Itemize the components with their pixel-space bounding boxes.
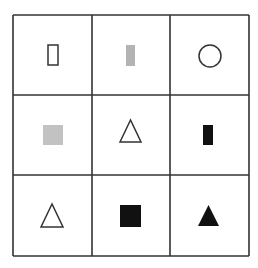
grid-cell-r2-c0 xyxy=(41,204,63,227)
grid-cell-r1-c2 xyxy=(203,125,213,145)
black-triangle-icon xyxy=(198,205,219,226)
grid-cell-r1-c1 xyxy=(120,120,141,142)
gray-square-icon xyxy=(43,125,63,145)
shape-grid-puzzle xyxy=(0,0,258,268)
outline-circle-icon xyxy=(199,45,221,67)
outline-triangle-icon xyxy=(120,120,141,142)
grid-cell-r0-c1 xyxy=(126,45,135,66)
outline-rectangle-icon xyxy=(48,45,58,65)
grid-cell-r2-c1 xyxy=(120,205,141,227)
grid-cell-r1-c0 xyxy=(43,125,63,145)
grid-cells xyxy=(41,45,221,227)
grid-cell-r0-c0 xyxy=(48,45,58,65)
black-rectangle-icon xyxy=(203,125,213,145)
grid-cell-r0-c2 xyxy=(199,45,221,67)
black-square-icon xyxy=(120,205,141,227)
grid-cell-r2-c2 xyxy=(198,205,219,226)
outline-triangle-icon xyxy=(41,204,63,227)
gray-rectangle-icon xyxy=(126,45,135,66)
